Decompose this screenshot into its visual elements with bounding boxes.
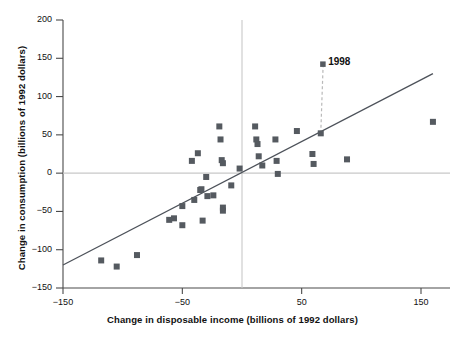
data-point [256,153,262,159]
data-point [179,203,185,209]
data-point [200,218,206,224]
data-point [198,186,204,192]
x-tick-label: −50 [162,297,202,307]
regression-line [63,74,433,265]
y-axis-title: Change in consumption (billions of 1992 … [16,18,27,298]
data-point [220,160,226,166]
data-point [318,130,324,136]
plot-canvas [0,0,465,338]
data-point [344,156,350,162]
data-point [216,123,222,129]
annotation-label-1998: 1998 [328,56,350,67]
data-point [179,222,185,228]
annotation-leader-line [321,64,323,133]
data-point [203,174,209,180]
data-point [274,158,280,164]
x-tick-label: −150 [43,297,83,307]
data-point [430,119,436,125]
data-point [134,252,140,258]
data-point [210,192,216,198]
annotation-marker [320,61,326,67]
data-point [255,141,261,147]
x-tick-label: 50 [282,297,322,307]
data-point [114,264,120,270]
data-point [228,182,234,188]
data-point [252,123,258,129]
data-point [237,166,243,172]
data-point [220,208,226,214]
data-points-group [98,119,436,270]
data-point [191,197,197,203]
annotation-swatch [320,61,326,67]
regression-line-path [63,74,433,265]
data-point [195,150,201,156]
annotation-leader [321,64,323,133]
data-point [98,257,104,263]
data-point [171,215,177,221]
axes-group [56,20,450,294]
data-point [272,136,278,142]
data-point [311,161,317,167]
data-point [294,128,300,134]
data-point [259,162,265,168]
data-point [218,136,224,142]
data-point [189,158,195,164]
x-axis-title: Change in disposable income (billions of… [0,314,465,325]
data-point [275,171,281,177]
x-tick-label: 150 [401,297,441,307]
scatter-chart: −150−100−50050100150200 −150−5050150 199… [0,0,465,338]
data-point [204,193,210,199]
data-point [309,151,315,157]
